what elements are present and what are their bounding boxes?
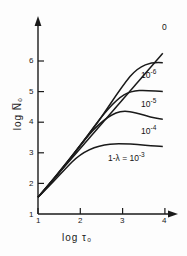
- figure-container: 1 2 3 4 5 6 1 2 3 4 log τ₀ log N̅₀ 0 10-…: [0, 0, 187, 256]
- curve-label-1e-5: 10-5: [141, 97, 156, 109]
- curve-label-1e-3: 1-λ = 10-3: [108, 151, 145, 163]
- y-axis-title: log N̅₀: [12, 84, 23, 144]
- x-tick-label-2: 2: [78, 216, 82, 225]
- curve-label-1e-4-exponent: -4: [150, 124, 156, 131]
- y-tick-label-6: 6: [29, 56, 33, 65]
- y-axis-arrow-icon: [35, 16, 42, 26]
- curve-label-1e-4: 10-4: [141, 124, 156, 136]
- curve-label-1e-5-exponent: -5: [150, 97, 156, 104]
- y-tick-label-1: 1: [29, 210, 33, 219]
- curve-label-0: 0: [162, 22, 167, 32]
- x-tick-label-3: 3: [120, 216, 124, 225]
- y-tick-label-5: 5: [29, 87, 33, 96]
- curve-label-1e-6: 10-6: [141, 68, 156, 80]
- y-tick-label-2: 2: [29, 179, 33, 188]
- curve-label-1e-3-prefix: 1-λ = 10: [108, 153, 139, 163]
- curve-label-1e-6-exponent: -6: [150, 68, 156, 75]
- y-tick-label-4: 4: [29, 117, 33, 126]
- x-tick-label-4: 4: [162, 216, 166, 225]
- x-axis-title: log τ₀: [62, 232, 92, 243]
- curve-label-0-text: 0: [162, 22, 167, 32]
- x-axis-arrow-icon: [168, 211, 178, 218]
- y-tick-label-3: 3: [29, 148, 33, 157]
- y-axis-ticks: [38, 61, 44, 183]
- x-tick-label-1: 1: [36, 216, 40, 225]
- curve-label-1e-3-exponent: -3: [139, 151, 145, 158]
- x-axis-ticks: [38, 208, 165, 214]
